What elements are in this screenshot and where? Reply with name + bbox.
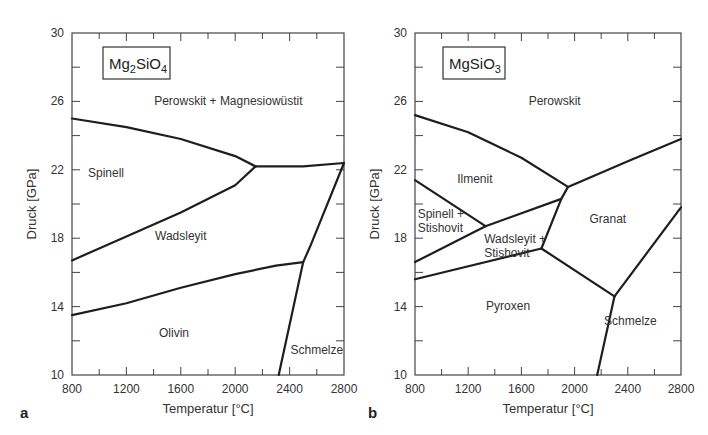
phase-boundary-line: [256, 163, 344, 166]
phase-region-label: Schmelze: [604, 314, 657, 328]
phase-region-label: Perowskit + Magnesiowüstit: [154, 94, 303, 108]
x-tick-label: 2800: [331, 382, 358, 396]
y-tick-label: 18: [51, 231, 65, 245]
x-axis-label: Temperatur [°C]: [502, 401, 593, 416]
y-tick-label: 10: [394, 368, 408, 382]
x-tick-label: 1200: [113, 382, 140, 396]
x-tick-label: 1600: [167, 382, 194, 396]
y-tick-label: 18: [394, 231, 408, 245]
x-tick-label: 1600: [508, 382, 535, 396]
phase-region-label: Wadsleyit: [155, 229, 207, 243]
y-tick-label: 22: [394, 163, 408, 177]
y-tick-label: 26: [51, 94, 65, 108]
x-tick-label: 1200: [455, 382, 482, 396]
phase-region-label: Granat: [590, 212, 627, 226]
chart-panel-a: 80012001600200024002800101418222630Tempe…: [20, 26, 358, 421]
phase-region-label: Olivin: [159, 326, 189, 340]
x-axis-label: Temperatur [°C]: [162, 401, 253, 416]
x-tick-label: 2400: [614, 382, 641, 396]
phase-boundary-line: [568, 139, 681, 187]
y-tick-label: 26: [394, 94, 408, 108]
panel-label: b: [368, 404, 377, 421]
panel-label: a: [20, 404, 29, 421]
x-tick-label: 2000: [561, 382, 588, 396]
phase-region-label: Perowskit: [529, 94, 582, 108]
y-tick-label: 10: [51, 368, 65, 382]
x-tick-label: 2000: [222, 382, 249, 396]
y-axis-label: Druck [GPa]: [367, 169, 382, 240]
phase-boundary-line: [486, 187, 569, 226]
y-tick-label: 22: [51, 163, 65, 177]
phase-boundary-line: [72, 119, 256, 167]
plot-frame: [72, 33, 344, 375]
y-tick-label: 14: [51, 300, 65, 314]
y-tick-label: 30: [51, 26, 65, 40]
phase-boundary-line: [597, 296, 614, 375]
phase-region-label: Ilmenit: [457, 172, 493, 186]
phase-boundary-line: [72, 262, 303, 315]
x-tick-label: 2400: [276, 382, 303, 396]
y-axis-label: Druck [GPa]: [24, 169, 39, 240]
phase-region-label: Spinell +Stishovit: [418, 207, 464, 235]
phase-region-label: Spinell: [88, 166, 124, 180]
phase-region-label: Wadsleyit +Stishovit: [484, 232, 546, 260]
phase-boundary-line: [541, 249, 614, 297]
y-tick-label: 30: [394, 26, 408, 40]
phase-diagrams: 80012001600200024002800101418222630Tempe…: [0, 0, 708, 435]
x-tick-label: 2800: [668, 382, 695, 396]
phase-boundary-line: [72, 166, 256, 260]
x-tick-label: 800: [405, 382, 425, 396]
chart-panel-b: 80012001600200024002800101418222630Tempe…: [367, 26, 695, 421]
y-tick-label: 14: [394, 300, 408, 314]
x-tick-label: 800: [62, 382, 82, 396]
phase-region-label: Schmelze: [290, 343, 343, 357]
phase-region-label: Pyroxen: [486, 299, 530, 313]
